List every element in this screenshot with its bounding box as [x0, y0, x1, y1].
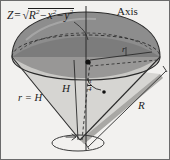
formula-label: Z=√R2−x2−y2 [7, 8, 74, 21]
angle-denominator: 4 [88, 86, 92, 93]
radius-R-label: R [138, 100, 145, 111]
angle-label: π 4 [88, 78, 92, 94]
formula-radicand-r: R [29, 9, 36, 21]
figure-drawing [0, 0, 170, 160]
height-label: H [62, 83, 70, 94]
cone-slant-relation-label: r = H [18, 93, 42, 104]
center-point-dot [85, 59, 90, 64]
formula-exp-2c: 2 [69, 8, 73, 16]
axis-label: Axis [117, 6, 138, 17]
radius-r-label: r [122, 45, 125, 54]
formula-radical: √R2−x2−y2 [21, 8, 74, 21]
math-figure: Z=√R2−x2−y2 Axis r = H H R r π 4 [0, 0, 170, 160]
angle-numerator: π [88, 78, 92, 85]
angle-vertex-dot [102, 90, 106, 94]
radius-R-bracket-cap-top [163, 66, 167, 72]
formula-equals: = [14, 9, 22, 21]
